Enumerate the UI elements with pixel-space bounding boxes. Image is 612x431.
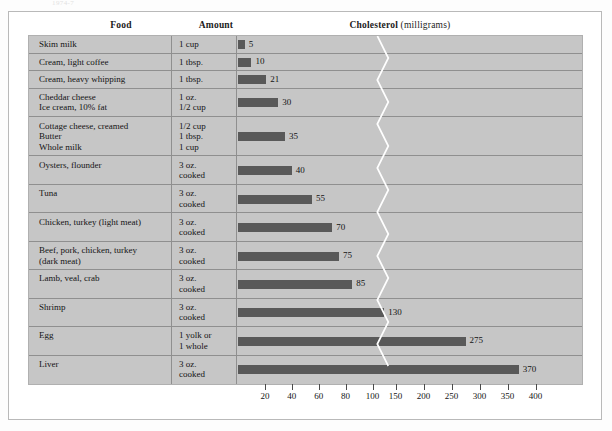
table-row: Skim milk1 cup5: [29, 36, 582, 54]
x-axis: 20406080100150200250300350400: [29, 384, 582, 414]
amount-label: 3 oz.cooked: [179, 245, 233, 266]
table-row: Cream, light coffee1 tbsp.10: [29, 54, 582, 72]
chart-page: 1974-7 Food Amount Cholesterol (milligra…: [0, 0, 612, 431]
value-label: 10: [255, 56, 264, 66]
axis-tick-label: 350: [501, 391, 515, 401]
amount-label: 3 oz.cooked: [179, 302, 233, 323]
value-label: 75: [343, 250, 352, 260]
value-label: 275: [470, 335, 484, 345]
food-line: Liver: [39, 359, 167, 370]
axis-tick: [452, 384, 453, 390]
axis-tick-label: 100: [366, 391, 380, 401]
amount-line: 1 tbsp.: [179, 131, 233, 142]
cholesterol-unit: (milligrams): [401, 20, 451, 30]
axis-tick: [319, 384, 320, 390]
data-panel: Skim milk1 cup5Cream, light coffee1 tbsp…: [29, 36, 582, 384]
amount-label: 1 tbsp.: [179, 74, 233, 85]
table-row: Tuna3 oz.cooked55: [29, 185, 582, 213]
food-line: Cheddar cheese: [39, 92, 167, 103]
value-label: 21: [270, 74, 279, 84]
food-label: Tuna: [39, 188, 167, 199]
food-line: Whole milk: [39, 142, 167, 153]
value-bar: [238, 195, 312, 204]
table-row: Oysters, flounder3 oz.cooked40: [29, 156, 582, 184]
amount-line: cooked: [179, 312, 233, 323]
food-line: Cream, light coffee: [39, 57, 167, 68]
axis-tick-label: 400: [529, 391, 543, 401]
food-line: Tuna: [39, 188, 167, 199]
value-bar: [238, 132, 285, 141]
axis-tick-label: 200: [417, 391, 431, 401]
food-line: Shrimp: [39, 302, 167, 313]
amount-line: 3 oz.: [179, 217, 233, 228]
amount-line: 1/2 cup: [179, 121, 233, 132]
value-bar: [238, 58, 251, 67]
amount-line: 1 yolk or: [179, 330, 233, 341]
food-label: Cheddar cheeseIce cream, 10% fat: [39, 92, 167, 113]
table-row: Shrimp3 oz.cooked130: [29, 299, 582, 327]
column-header-amount: Amount: [186, 20, 246, 30]
axis-tick: [373, 384, 374, 390]
amount-label: 3 oz.cooked: [179, 188, 233, 209]
amount-line: 1 oz.: [179, 92, 233, 103]
value-label: 40: [296, 165, 305, 175]
axis-tick-label: 300: [473, 391, 487, 401]
axis-tick: [508, 384, 509, 390]
table-row: Egg1 yolk or1 whole275: [29, 327, 582, 355]
food-label: Skim milk: [39, 39, 167, 50]
amount-label: 1 oz.1/2 cup: [179, 92, 233, 113]
amount-line: cooked: [179, 227, 233, 238]
value-label: 370: [523, 364, 537, 374]
value-label: 85: [356, 278, 365, 288]
value-bar: [238, 40, 245, 49]
amount-line: 3 oz.: [179, 245, 233, 256]
axis-tick-label: 150: [389, 391, 403, 401]
food-label: Cream, heavy whipping: [39, 74, 167, 85]
axis-tick-label: 20: [260, 391, 269, 401]
axis-tick: [480, 384, 481, 390]
value-label: 70: [336, 222, 345, 232]
amount-line: cooked: [179, 256, 233, 267]
table-row: Cottage cheese, creamedButterWhole milk1…: [29, 117, 582, 156]
table-row: Beef, pork, chicken, turkey(dark meat)3 …: [29, 242, 582, 270]
food-label: Chicken, turkey (light meat): [39, 217, 167, 228]
column-header-cholesterol: Cholesterol (milligrams): [300, 20, 500, 30]
food-label: Beef, pork, chicken, turkey(dark meat): [39, 245, 167, 266]
axis-tick: [424, 384, 425, 390]
amount-label: 3 oz.cooked: [179, 160, 233, 181]
amount-line: 3 oz.: [179, 302, 233, 313]
value-bar: [238, 98, 278, 107]
food-line: Butter: [39, 131, 167, 142]
table-row: Cream, heavy whipping1 tbsp.21: [29, 71, 582, 89]
axis-tick: [292, 384, 293, 390]
food-label: Shrimp: [39, 302, 167, 313]
food-line: Egg: [39, 330, 167, 341]
amount-label: 1/2 cup1 tbsp.1 cup: [179, 121, 233, 153]
table-row: Lamb, veal, crab3 oz.cooked85: [29, 270, 582, 298]
food-line: Oysters, flounder: [39, 160, 167, 171]
axis-tick-label: 60: [314, 391, 323, 401]
table-row: Cheddar cheeseIce cream, 10% fat1 oz.1/2…: [29, 89, 582, 117]
table-row: Chicken, turkey (light meat)3 oz.cooked7…: [29, 213, 582, 241]
food-line: Ice cream, 10% fat: [39, 102, 167, 113]
amount-line: 3 oz.: [179, 359, 233, 370]
value-label: 55: [316, 193, 325, 203]
value-bar: [238, 75, 266, 84]
axis-tick: [346, 384, 347, 390]
axis-tick: [536, 384, 537, 390]
table-row: Liver3 oz.cooked370: [29, 356, 582, 384]
food-label: Lamb, veal, crab: [39, 273, 167, 284]
amount-line: cooked: [179, 170, 233, 181]
food-label: Liver: [39, 359, 167, 370]
axis-tick-label: 250: [445, 391, 459, 401]
axis-tick-label: 80: [341, 391, 350, 401]
axis-tick-label: 40: [287, 391, 296, 401]
value-bar: [238, 223, 332, 232]
column-header-food: Food: [70, 20, 172, 30]
food-line: (dark meat): [39, 256, 167, 267]
cholesterol-title: Cholesterol: [350, 20, 398, 30]
amount-line: cooked: [179, 369, 233, 380]
value-label: 5: [249, 39, 254, 49]
food-label: Cottage cheese, creamedButterWhole milk: [39, 121, 167, 153]
food-line: Beef, pork, chicken, turkey: [39, 245, 167, 256]
